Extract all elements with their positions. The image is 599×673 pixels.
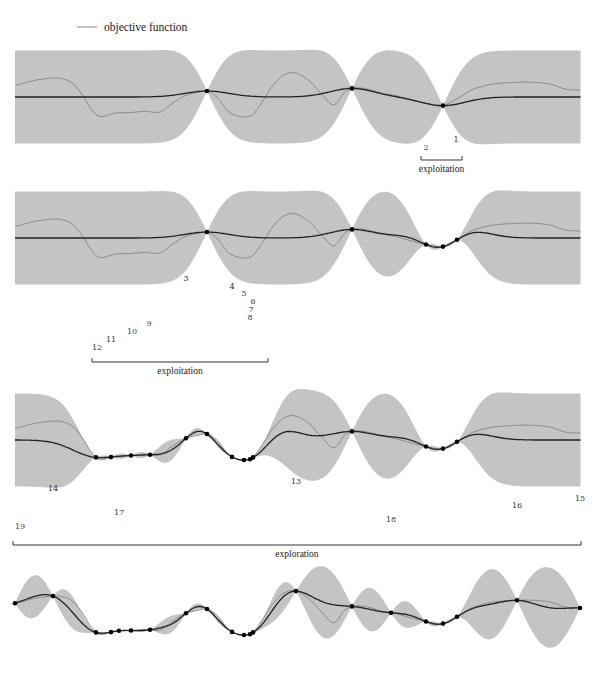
- observation-point: [184, 611, 189, 616]
- observation-point: [294, 589, 299, 594]
- observation-point: [441, 244, 446, 249]
- iteration-number: 4: [229, 282, 234, 291]
- bracket-label: exploitation: [157, 366, 203, 376]
- iteration-number: 10: [127, 327, 137, 336]
- observation-point: [109, 630, 114, 635]
- bracket-exploitation: exploitation: [92, 358, 268, 376]
- observation-point: [129, 453, 134, 458]
- observation-point: [515, 598, 520, 603]
- legend-label: objective function: [104, 21, 188, 34]
- gp-panel-3: 13141516171819exploration: [13, 389, 585, 559]
- observation-point: [51, 594, 56, 599]
- iteration-number: 12: [92, 343, 102, 352]
- observation-point: [242, 458, 247, 463]
- observation-point: [441, 446, 446, 451]
- legend: objective function: [77, 21, 188, 34]
- iteration-number: 5: [241, 289, 246, 298]
- bracket-line: [421, 156, 462, 160]
- observation-point: [441, 621, 446, 626]
- observation-point: [184, 436, 189, 441]
- observation-point: [205, 230, 210, 235]
- observation-point: [350, 604, 355, 609]
- iteration-number: 14: [48, 484, 58, 493]
- observation-point: [109, 455, 114, 460]
- gp-panel-4: [13, 566, 583, 648]
- iteration-number: 1: [453, 135, 458, 144]
- observation-point: [350, 429, 355, 434]
- bracket-label: exploitation: [419, 164, 465, 174]
- observation-point: [205, 607, 210, 612]
- observation-point: [251, 455, 256, 460]
- observation-point: [389, 610, 394, 615]
- bracket-label: exploration: [275, 549, 319, 559]
- observation-point: [424, 619, 429, 624]
- observation-point: [578, 606, 583, 611]
- observation-point: [148, 453, 153, 458]
- observation-point: [148, 628, 153, 633]
- observation-point: [94, 455, 99, 460]
- bracket-exploitation: exploitation: [419, 156, 465, 174]
- observation-point: [350, 227, 355, 232]
- uncertainty-band: [15, 389, 581, 488]
- bracket-line: [92, 358, 268, 362]
- observation-point: [205, 432, 210, 437]
- observation-point: [205, 89, 210, 94]
- gp-panel-2: 3456789101112exploitation: [15, 190, 581, 376]
- observation-point: [455, 615, 460, 620]
- observation-point: [117, 629, 122, 634]
- iteration-number: 13: [291, 477, 301, 486]
- iteration-number: 17: [114, 508, 124, 517]
- observation-point: [424, 242, 429, 247]
- observation-point: [424, 444, 429, 449]
- bracket-line: [13, 541, 581, 545]
- observation-point: [230, 455, 235, 460]
- observation-point: [441, 103, 446, 108]
- iteration-number: 15: [575, 494, 585, 503]
- iteration-number: 3: [183, 274, 188, 283]
- iteration-number: 11: [106, 335, 116, 344]
- observation-point: [94, 630, 99, 635]
- observation-point: [230, 630, 235, 635]
- observation-point: [13, 601, 18, 606]
- iteration-number: 19: [15, 522, 25, 531]
- observation-point: [455, 440, 460, 445]
- bracket-exploration: exploration: [13, 541, 581, 559]
- bayesian-optimization-figure: objective function 12exploitation3456789…: [0, 0, 599, 673]
- observation-point: [251, 630, 256, 635]
- gp-panel-1: 12exploitation: [15, 50, 581, 174]
- iteration-number: 9: [146, 319, 151, 328]
- observation-point: [129, 628, 134, 633]
- iteration-number: 18: [386, 515, 396, 524]
- observation-point: [455, 238, 460, 243]
- panels: 12exploitation3456789101112exploitation1…: [13, 50, 585, 648]
- iteration-number: 8: [247, 313, 252, 322]
- observation-point: [242, 633, 247, 638]
- iteration-number: 2: [423, 143, 428, 152]
- observation-point: [350, 86, 355, 91]
- iteration-number: 16: [512, 501, 522, 510]
- uncertainty-band: [15, 566, 581, 648]
